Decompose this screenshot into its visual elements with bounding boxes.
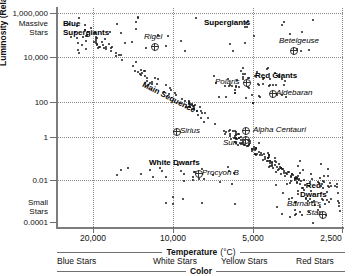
scatter-dot bbox=[284, 175, 286, 177]
scatter-dot bbox=[244, 73, 246, 75]
scatter-dot bbox=[199, 106, 201, 108]
scatter-dot bbox=[263, 153, 265, 155]
scatter-dot bbox=[330, 198, 332, 200]
scatter-dot bbox=[267, 157, 269, 159]
region-label-red-giants: Red Giants bbox=[255, 72, 297, 81]
scatter-dot bbox=[289, 182, 291, 184]
scatter-dot bbox=[297, 190, 299, 192]
scatter-dot bbox=[120, 32, 122, 34]
scatter-dot bbox=[229, 43, 231, 45]
scatter-dot bbox=[290, 175, 292, 177]
x-axis-line bbox=[56, 227, 344, 229]
scatter-dot bbox=[132, 65, 134, 67]
scatter-dot bbox=[172, 203, 174, 205]
scatter-dot bbox=[275, 84, 277, 86]
scatter-dot bbox=[137, 16, 139, 18]
scatter-dot bbox=[287, 171, 289, 173]
scatter-dot bbox=[141, 72, 143, 74]
scatter-dot bbox=[192, 179, 194, 181]
y-tick-label-100: 100 bbox=[0, 98, 48, 107]
color-category-red-stars: Red Stars bbox=[296, 256, 334, 266]
y-tick-mark bbox=[50, 57, 57, 58]
scatter-dot bbox=[232, 50, 234, 52]
scatter-dot bbox=[231, 183, 233, 185]
scatter-dot bbox=[239, 142, 241, 144]
scatter-dot bbox=[244, 42, 246, 44]
region-label-red-dwarfs-line2: Dwarfs bbox=[300, 190, 327, 199]
scatter-dot bbox=[135, 61, 137, 63]
scatter-dot bbox=[297, 193, 299, 195]
color-category-yellow-stars: Yellow Stars bbox=[221, 256, 267, 266]
scatter-dot bbox=[258, 142, 260, 144]
star-label-barnards-star: Barnard'sStar bbox=[275, 200, 321, 217]
scatter-dot bbox=[248, 144, 250, 146]
x-tick-label-20000: 20,000 bbox=[68, 233, 118, 243]
scatter-dot bbox=[338, 205, 340, 207]
scatter-dot bbox=[275, 184, 277, 186]
scatter-dot bbox=[319, 177, 321, 179]
y-tick-label-10000: 10,000 bbox=[0, 53, 48, 62]
y-axis-bottom-note: Small Stars bbox=[0, 198, 48, 216]
scatter-dot bbox=[279, 166, 281, 168]
scatter-dot bbox=[282, 192, 284, 194]
scatter-dot bbox=[234, 92, 236, 94]
scatter-dot bbox=[224, 133, 226, 135]
scatter-dot bbox=[280, 173, 282, 175]
scatter-dot bbox=[337, 200, 339, 202]
scatter-dot bbox=[85, 40, 87, 42]
scatter-dot bbox=[121, 59, 123, 61]
scatter-dot bbox=[275, 171, 277, 173]
scatter-dot bbox=[184, 50, 186, 52]
scatter-dot bbox=[108, 43, 110, 45]
scatter-dot bbox=[145, 47, 147, 49]
scatter-dot bbox=[330, 185, 332, 187]
scatter-dot bbox=[116, 174, 118, 176]
scatter-dot bbox=[228, 130, 230, 132]
scatter-dot bbox=[328, 201, 330, 203]
scatter-dot bbox=[255, 147, 257, 149]
scatter-dot bbox=[251, 150, 253, 152]
scatter-dot bbox=[240, 70, 242, 72]
scatter-dot bbox=[118, 54, 120, 56]
x-tick-label-5000: 5,000 bbox=[231, 233, 275, 243]
scatter-dot bbox=[262, 159, 264, 161]
scatter-dot bbox=[104, 38, 106, 40]
scatter-dot bbox=[262, 83, 264, 85]
scatter-dot bbox=[286, 183, 288, 185]
scatter-dot bbox=[131, 41, 133, 43]
scatter-dot bbox=[229, 135, 231, 137]
scatter-dot bbox=[234, 203, 236, 205]
scatter-dot bbox=[198, 178, 200, 180]
scatter-dot bbox=[146, 77, 148, 79]
scatter-dot bbox=[165, 202, 167, 204]
scatter-dot bbox=[276, 166, 278, 168]
scatter-dot bbox=[323, 175, 325, 177]
scatter-dot bbox=[101, 41, 103, 43]
scatter-dot bbox=[281, 24, 283, 26]
scatter-dot bbox=[238, 133, 240, 135]
scatter-dot bbox=[272, 84, 274, 86]
scatter-dot bbox=[124, 42, 126, 44]
scatter-dot bbox=[137, 71, 139, 73]
scatter-dot bbox=[290, 180, 292, 182]
y-tick-label-1000000: 1,000,000 bbox=[0, 9, 48, 18]
y-tick-mark bbox=[50, 180, 57, 181]
scatter-dot bbox=[245, 97, 247, 99]
scatter-dot bbox=[274, 164, 276, 166]
scatter-dot bbox=[172, 196, 174, 198]
scatter-dot bbox=[296, 182, 298, 184]
scatter-dot bbox=[116, 23, 118, 25]
scatter-dot bbox=[161, 170, 163, 172]
y-tick-label-0.01: 0.01 bbox=[0, 176, 48, 185]
scatter-dot bbox=[167, 35, 169, 37]
scatter-dot bbox=[289, 33, 291, 35]
color-axis-title-text: Color bbox=[190, 266, 212, 276]
scatter-dot bbox=[207, 117, 209, 119]
scatter-dot bbox=[312, 222, 314, 224]
scatter-dot bbox=[235, 134, 237, 136]
scatter-dot bbox=[77, 49, 79, 51]
color-axis-title: Color bbox=[57, 266, 345, 276]
scatter-dot bbox=[302, 169, 304, 171]
scatter-dot bbox=[267, 152, 269, 154]
